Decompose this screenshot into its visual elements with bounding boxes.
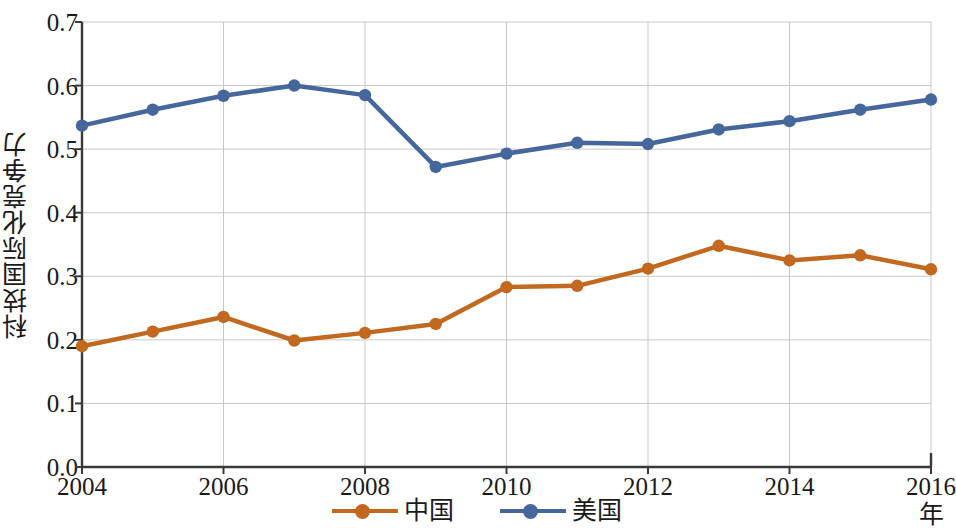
data-point[interactable]	[925, 263, 937, 275]
legend-item-china[interactable]: 中国	[332, 498, 454, 523]
data-point[interactable]	[571, 280, 583, 292]
x-tick-label: 2004	[57, 474, 107, 499]
data-point[interactable]	[76, 119, 88, 131]
chart-legend: 中国 美国	[0, 498, 954, 523]
data-point[interactable]	[288, 334, 300, 346]
data-point[interactable]	[642, 138, 654, 150]
data-point[interactable]	[783, 254, 795, 266]
data-point[interactable]	[147, 104, 159, 116]
data-point[interactable]	[359, 89, 371, 101]
data-point[interactable]	[854, 249, 866, 261]
x-tick-label: 2014	[765, 474, 815, 499]
data-point[interactable]	[76, 340, 88, 352]
x-tick-label: 2010	[482, 474, 532, 499]
axis-ticks	[75, 22, 931, 474]
data-point[interactable]	[217, 311, 229, 323]
data-point[interactable]	[571, 137, 583, 149]
x-tick-label: 2016	[906, 474, 956, 499]
x-tick-label: 2008	[340, 474, 390, 499]
legend-label-usa: 美国	[572, 498, 622, 523]
x-tick-label: 2006	[199, 474, 249, 499]
legend-marker-usa-icon	[500, 501, 566, 521]
x-tick-label: 2012	[623, 474, 673, 499]
data-point[interactable]	[147, 325, 159, 337]
data-point[interactable]	[713, 240, 725, 252]
data-point[interactable]	[500, 147, 512, 159]
data-point[interactable]	[500, 281, 512, 293]
data-point[interactable]	[430, 161, 442, 173]
data-point[interactable]	[783, 115, 795, 127]
data-point[interactable]	[359, 327, 371, 339]
data-point[interactable]	[642, 262, 654, 274]
legend-label-china: 中国	[404, 498, 454, 523]
data-point[interactable]	[288, 79, 300, 91]
legend-item-usa[interactable]: 美国	[500, 498, 622, 523]
data-point[interactable]	[217, 90, 229, 102]
data-point[interactable]	[430, 318, 442, 330]
legend-marker-china-icon	[332, 501, 398, 521]
data-point[interactable]	[854, 104, 866, 116]
data-point[interactable]	[713, 123, 725, 135]
data-point[interactable]	[925, 93, 937, 105]
gridlines	[82, 22, 931, 467]
